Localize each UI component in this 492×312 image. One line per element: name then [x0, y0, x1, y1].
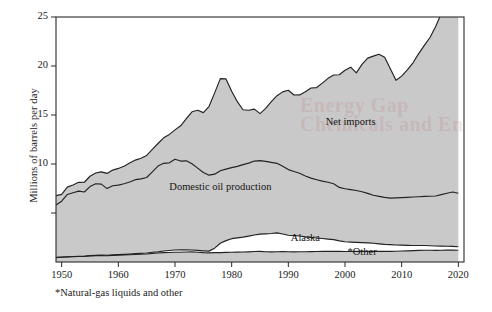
x-tick-label: 1990 — [266, 269, 310, 280]
series-label-domesticoilproduction: Domestic oil production — [169, 181, 271, 192]
y-axis-title: Millions of barrels per day — [28, 66, 39, 226]
series-label-netimports: Net imports — [326, 116, 376, 127]
x-tick-label: 2000 — [323, 269, 367, 280]
y-tick-label: 20 — [16, 59, 48, 70]
series-label-alaska: Alaska — [291, 232, 320, 243]
chart-canvas — [0, 0, 492, 312]
figure-oil-supply-chart: Energy Gap Chemicals and En Millions of … — [0, 0, 492, 312]
y-tick-label: 10 — [16, 157, 48, 168]
x-tick-label: 2010 — [380, 269, 424, 280]
chart-footnote: *Natural-gas liquids and other — [55, 287, 182, 298]
y-tick-label: 25 — [16, 10, 48, 21]
x-tick-label: 1950 — [40, 269, 84, 280]
x-tick-label: 1980 — [210, 269, 254, 280]
x-tick-label: 1970 — [153, 269, 197, 280]
y-tick-label: 15 — [16, 108, 48, 119]
x-tick-label: 1960 — [96, 269, 140, 280]
x-tick-label: 2020 — [436, 269, 480, 280]
series-label-other: *Other — [348, 246, 377, 257]
y-axis-ticks — [51, 17, 56, 213]
x-axis-ticks — [62, 262, 459, 267]
